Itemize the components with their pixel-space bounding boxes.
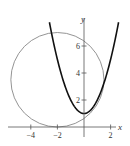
x-tick-label: 2 — [109, 131, 113, 140]
y-tick-label: 4 — [76, 69, 80, 78]
y-tick-label: 2 — [76, 96, 80, 105]
y-tick-label: 6 — [76, 42, 80, 51]
x-tick-label: −4 — [27, 131, 36, 140]
circle-curve — [11, 33, 104, 128]
graph: −4−22246 x y — [0, 0, 130, 146]
x-tick-label: −2 — [53, 131, 62, 140]
x-axis-label: x — [117, 122, 122, 132]
y-axis-label: y — [80, 14, 85, 24]
